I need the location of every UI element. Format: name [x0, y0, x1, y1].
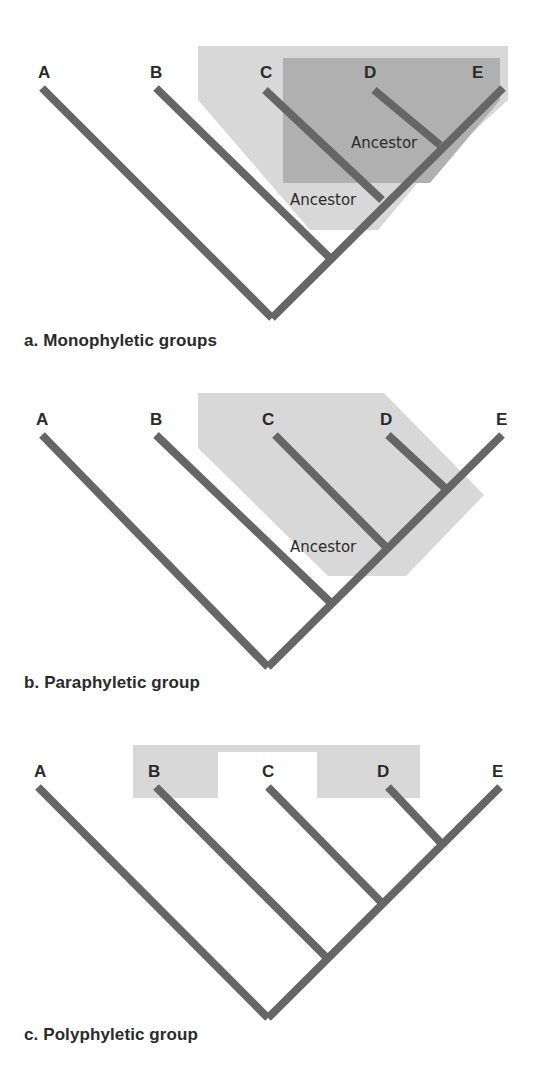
taxon-labels: A B C D E [34, 762, 503, 781]
taxon-label-a: A [38, 63, 50, 82]
cladogram-polyphyletic: A B C D E [0, 730, 552, 1030]
taxon-label-e: E [492, 762, 503, 781]
taxon-label-d: D [377, 762, 389, 781]
taxon-label-e: E [472, 63, 483, 82]
panel-monophyletic: A B C D E Ancestor Ancestor a. Monophyle… [0, 0, 552, 360]
taxon-label-d: D [364, 63, 376, 82]
taxon-label-b: B [150, 410, 162, 429]
taxon-label-c: C [262, 410, 274, 429]
taxon-label-b: B [150, 63, 162, 82]
panel-polyphyletic: A B C D E c. Polyphyletic group [0, 730, 552, 1060]
taxon-label-c: C [262, 762, 274, 781]
caption-polyphyletic: c. Polyphyletic group [24, 1025, 198, 1045]
taxon-label-a: A [34, 762, 46, 781]
caption-paraphyletic: b. Paraphyletic group [24, 673, 200, 693]
taxon-label-d: D [380, 410, 392, 429]
cladogram-monophyletic: A B C D E Ancestor Ancestor [0, 0, 552, 330]
taxon-label-a: A [36, 410, 48, 429]
taxon-label-b: B [148, 762, 160, 781]
cladogram-paraphyletic: A B C D E Ancestor [0, 380, 552, 680]
ancestor-label-de: Ancestor [351, 134, 418, 152]
taxon-label-c: C [260, 63, 272, 82]
ancestor-label-cde: Ancestor [290, 191, 357, 209]
panel-paraphyletic: A B C D E Ancestor b. Paraphyletic group [0, 380, 552, 710]
taxon-labels: A B C D E [36, 410, 507, 429]
taxon-label-e: E [496, 410, 507, 429]
caption-monophyletic: a. Monophyletic groups [24, 331, 217, 351]
ancestor-label-cde: Ancestor [290, 538, 357, 556]
